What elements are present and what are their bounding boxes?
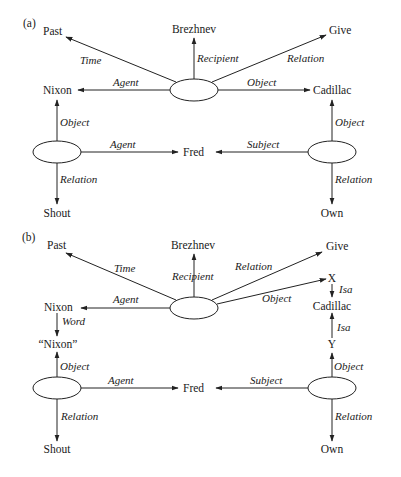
node-cadillac: Cadillac xyxy=(313,300,351,312)
event-node-own xyxy=(308,377,356,399)
node-give: Give xyxy=(329,24,351,36)
node-own: Own xyxy=(321,207,344,219)
event-node-give xyxy=(170,297,218,319)
edge-label-relation-shout: Relation xyxy=(60,410,99,422)
edge-label-word: Word xyxy=(62,315,86,327)
edge-label-object-cadillac: Object xyxy=(247,76,277,88)
edge-label-relation-give: Relation xyxy=(286,52,325,64)
panel-a: (a) Past Brezhnev Give Nixon Cadillac Fr… xyxy=(23,17,373,219)
node-brezhnev: Brezhnev xyxy=(172,23,216,35)
event-node-shout xyxy=(33,141,81,163)
edge-label-isa-x: Isa xyxy=(338,283,353,295)
node-shout: Shout xyxy=(44,443,72,455)
panel-a-label: (a) xyxy=(23,17,36,30)
edge-label-agent-fred: Agent xyxy=(109,138,137,150)
node-y: Y xyxy=(328,338,337,350)
edge-label-object-own: Object xyxy=(335,116,365,128)
edge-label-recipient: Recipient xyxy=(196,52,239,64)
node-fred: Fred xyxy=(183,382,204,394)
node-nixon: Nixon xyxy=(43,84,72,96)
node-past: Past xyxy=(47,239,67,251)
edge-label-relation-own: Relation xyxy=(334,410,373,422)
edge-label-time: Time xyxy=(114,262,136,274)
edge-label-relation-give: Relation xyxy=(234,260,273,272)
edge-label-subject-fred: Subject xyxy=(250,374,283,386)
edge-label-isa-y: Isa xyxy=(336,321,351,333)
edge-label-relation-own: Relation xyxy=(334,173,373,185)
event-node-give xyxy=(170,79,218,101)
edge-label-subject-fred: Subject xyxy=(247,138,280,150)
edge-label-object-nixon-word: Object xyxy=(60,360,90,372)
node-nixon: Nixon xyxy=(44,301,73,313)
node-brezhnev: Brezhnev xyxy=(171,239,215,251)
event-node-own xyxy=(308,141,356,163)
node-fred: Fred xyxy=(183,146,204,158)
node-past: Past xyxy=(43,25,63,37)
node-give: Give xyxy=(326,240,348,252)
panel-b: (b) Past Brezhnev Give Nixon X Cadillac … xyxy=(22,231,373,455)
node-cadillac: Cadillac xyxy=(313,84,351,96)
edge-label-object-y: Object xyxy=(334,360,364,372)
edge-label-time: Time xyxy=(80,54,102,66)
node-shout: Shout xyxy=(44,207,72,219)
edge-label-object-x: Object xyxy=(262,292,292,304)
edge-label-object-nixon: Object xyxy=(60,116,90,128)
edge-label-agent-nixon: Agent xyxy=(112,76,140,88)
event-node-shout xyxy=(33,377,81,399)
node-nixon-word: “Nixon” xyxy=(39,338,78,350)
edge-label-agent-nixon: Agent xyxy=(112,293,140,305)
edge-label-agent-fred: Agent xyxy=(107,374,135,386)
semantic-network-diagram: (a) Past Brezhnev Give Nixon Cadillac Fr… xyxy=(0,0,401,477)
edge-label-relation-shout: Relation xyxy=(59,173,98,185)
panel-b-label: (b) xyxy=(22,231,36,244)
node-own: Own xyxy=(321,443,344,455)
node-x: X xyxy=(328,272,337,284)
edge-label-recipient: Recipient xyxy=(171,270,214,282)
